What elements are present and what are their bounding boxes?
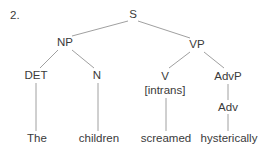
node-advp: AdvP — [214, 70, 242, 82]
node-det: DET — [25, 69, 48, 81]
edge-s-vp — [138, 21, 190, 38]
edge-vp-v — [169, 52, 190, 68]
node-hysterically: hysterically — [201, 132, 258, 144]
node-v-sub: [intrans] — [145, 84, 186, 96]
tree-nodes: SNPVPDETNV[intrans]AdvPAdvThechildrenscr… — [25, 8, 258, 144]
edge-s-np — [72, 21, 128, 36]
edge-vp-advp — [204, 52, 224, 68]
node-np: NP — [57, 36, 73, 48]
syntax-tree: 2. SNPVPDETNV[intrans]AdvPAdvThechildren… — [0, 0, 268, 153]
edge-np-n — [72, 50, 94, 68]
node-vp: VP — [189, 38, 205, 50]
node-v: V — [161, 70, 169, 82]
node-n: N — [93, 69, 101, 81]
node-the: The — [27, 132, 47, 144]
node-screamed: screamed — [141, 132, 192, 144]
edge-np-det — [40, 50, 58, 68]
node-children: children — [79, 132, 119, 144]
node-s: S — [129, 8, 137, 20]
node-adv: Adv — [218, 101, 238, 113]
example-number: 2. — [10, 9, 20, 21]
